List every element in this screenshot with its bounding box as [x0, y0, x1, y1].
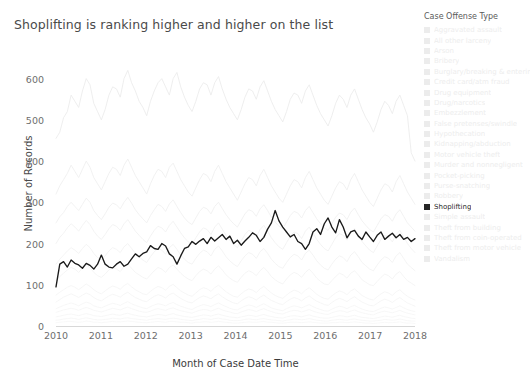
- x-axis-tick: 2012: [134, 330, 158, 341]
- legend-swatch: [424, 110, 430, 116]
- legend-swatch: [424, 121, 430, 127]
- legend-item[interactable]: Embezzlement: [424, 108, 530, 118]
- legend-swatch: [424, 183, 430, 189]
- series-line: [56, 159, 415, 206]
- series-line: [56, 313, 415, 318]
- legend-item[interactable]: Motor vehicle theft: [424, 150, 530, 160]
- legend-item[interactable]: Arson: [424, 46, 530, 56]
- series-line: [56, 197, 415, 232]
- y-axis-title: Number of Records: [23, 114, 34, 254]
- legend-item[interactable]: Vandalism: [424, 254, 530, 264]
- plot-area: [56, 58, 415, 326]
- legend-item-label: Murder and nonnegligent: [434, 160, 523, 170]
- y-axis-tick: 100: [26, 279, 44, 290]
- legend-item[interactable]: Murder and nonnegligent: [424, 160, 530, 170]
- legend-swatch: [424, 90, 430, 96]
- legend-item[interactable]: Theft from motor vehicle: [424, 243, 530, 253]
- x-axis: 201020112012201320142015201620172018: [56, 330, 415, 348]
- series-line: [56, 318, 415, 321]
- legend-swatch: [424, 152, 430, 158]
- legend-swatch: [424, 100, 430, 106]
- legend-item-label: Hypothecation: [434, 129, 485, 139]
- legend-swatch: [424, 131, 430, 137]
- legend-list: Aggravated assaultAll other larcenyArson…: [424, 25, 530, 264]
- legend-item-label: Theft from coin-operated: [434, 233, 522, 243]
- legend-swatch: [424, 204, 430, 210]
- legend-item[interactable]: Shoplifting: [424, 202, 530, 212]
- legend-item-label: False pretenses/swindle: [434, 119, 517, 129]
- legend-item[interactable]: Drug/narcotics: [424, 98, 530, 108]
- legend-swatch: [424, 141, 430, 147]
- legend-item[interactable]: Credit card/atm fraud: [424, 77, 530, 87]
- series-line: [56, 307, 415, 315]
- x-axis-tick: 2016: [313, 330, 337, 341]
- legend-item[interactable]: Hypothecation: [424, 129, 530, 139]
- y-axis-tick: 500: [26, 114, 44, 125]
- y-axis-tick: 200: [26, 238, 44, 249]
- page-title: Shoplifting is ranking higher and higher…: [14, 17, 333, 32]
- series-line: [56, 70, 415, 161]
- series-line-highlighted: [56, 211, 415, 287]
- legend-item-label: Shoplifting: [434, 202, 471, 212]
- series-line: [56, 220, 415, 253]
- line-chart-svg: [56, 58, 415, 326]
- x-axis-tick: 2014: [223, 330, 247, 341]
- legend-item-label: Embezzlement: [434, 108, 486, 118]
- x-axis-tick: 2018: [403, 330, 427, 341]
- legend-item-label: Kidnapping/abduction: [434, 139, 511, 149]
- legend-item-label: Robbery: [434, 191, 463, 201]
- legend-swatch: [424, 193, 430, 199]
- series-line: [56, 284, 415, 300]
- legend-swatch: [424, 69, 430, 75]
- legend-swatch: [424, 214, 430, 220]
- legend-item-label: Drug equipment: [434, 88, 491, 98]
- legend-item-label: Credit card/atm fraud: [434, 77, 510, 87]
- legend-item-label: Simple assault: [434, 212, 485, 222]
- x-axis-tick: 2010: [44, 330, 68, 341]
- x-axis-tick: 2015: [268, 330, 292, 341]
- legend-swatch: [424, 245, 430, 251]
- legend-item[interactable]: Aggravated assault: [424, 25, 530, 35]
- legend-item[interactable]: Kidnapping/abduction: [424, 139, 530, 149]
- legend-item-label: Theft from motor vehicle: [434, 243, 521, 253]
- legend-item[interactable]: Pocket-picking: [424, 170, 530, 180]
- legend-swatch: [424, 27, 430, 33]
- y-axis-tick: 300: [26, 197, 44, 208]
- legend-item-label: Bribery: [434, 56, 459, 66]
- legend-item-label: Pocket-picking: [434, 171, 485, 181]
- legend-item-label: Drug/narcotics: [434, 98, 485, 108]
- legend-swatch: [424, 173, 430, 179]
- x-axis-tick: 2013: [179, 330, 203, 341]
- legend-item[interactable]: All other larceny: [424, 35, 530, 45]
- legend-item[interactable]: Bribery: [424, 56, 530, 66]
- legend-item-label: Aggravated assault: [434, 25, 502, 35]
- legend: Case Offense Type Aggravated assaultAll …: [424, 12, 530, 264]
- y-axis: Number of Records 0100200300400500600: [0, 52, 52, 332]
- legend-item-label: Arson: [434, 46, 454, 56]
- legend-item-label: Purse-snatching: [434, 181, 490, 191]
- legend-swatch: [424, 235, 430, 241]
- y-axis-tick: 400: [26, 156, 44, 167]
- legend-swatch: [424, 225, 430, 231]
- legend-item[interactable]: Robbery: [424, 191, 530, 201]
- legend-item[interactable]: Theft from building: [424, 222, 530, 232]
- legend-item-label: Burglary/breaking & entering: [434, 67, 530, 77]
- legend-item[interactable]: Drug equipment: [424, 87, 530, 97]
- legend-title: Case Offense Type: [424, 12, 530, 21]
- legend-swatch: [424, 162, 430, 168]
- legend-swatch: [424, 58, 430, 64]
- legend-item[interactable]: False pretenses/swindle: [424, 119, 530, 129]
- legend-swatch: [424, 48, 430, 54]
- legend-swatch: [424, 38, 430, 44]
- legend-item-label: All other larceny: [434, 36, 491, 46]
- legend-item[interactable]: Purse-snatching: [424, 181, 530, 191]
- x-axis-title: Month of Case Date Time: [56, 358, 415, 369]
- y-axis-tick: 600: [26, 73, 44, 84]
- legend-item[interactable]: Simple assault: [424, 212, 530, 222]
- chart-page: Shoplifting is ranking higher and higher…: [0, 0, 532, 387]
- legend-item[interactable]: Theft from coin-operated: [424, 233, 530, 243]
- series-line: [56, 321, 415, 323]
- legend-item-label: Motor vehicle theft: [434, 150, 500, 160]
- legend-item-label: Vandalism: [434, 254, 470, 264]
- legend-item[interactable]: Burglary/breaking & entering: [424, 67, 530, 77]
